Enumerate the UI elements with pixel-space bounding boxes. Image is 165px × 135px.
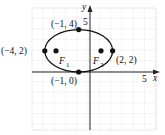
focus-f1-subscript: 1: [66, 61, 70, 69]
focus-f2-subscript: 2: [100, 61, 104, 69]
focus-f2-label: F: [92, 56, 99, 66]
focus-f1-label: F: [58, 56, 65, 66]
vertex-bottom-point: [76, 69, 81, 74]
label-top: (−1, 4): [51, 19, 77, 30]
focus-f1-point: [53, 48, 58, 53]
focus-f2-point: [98, 48, 103, 53]
label-right: (2, 2): [116, 55, 137, 66]
ellipse-graph: (−1, 4) 5 y (−4, 2) (2, 2) (−1, 0) 5 x F…: [0, 0, 165, 135]
x-axis-label: x: [152, 73, 158, 83]
y-tick-5: 5: [83, 17, 88, 27]
x-tick-5: 5: [142, 74, 147, 84]
label-bottom: (−1, 0): [51, 76, 77, 87]
label-left: (−4, 2): [1, 46, 27, 57]
y-axis-label: y: [81, 2, 87, 12]
vertex-right-point: [110, 48, 115, 53]
vertex-left-point: [42, 48, 47, 53]
